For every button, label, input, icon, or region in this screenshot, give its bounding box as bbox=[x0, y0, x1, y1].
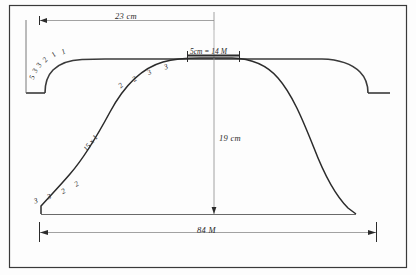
diagram-canvas: 23 cm 5cm = 14 M 19 cm 84 M 5 3 3 2 1 1 … bbox=[0, 0, 416, 275]
outer-profile bbox=[26, 59, 390, 93]
outer-profile-right-shoulder bbox=[322, 59, 368, 93]
bottom-width-dimension-label: 84 M bbox=[197, 226, 216, 235]
arrow-down-icon bbox=[212, 207, 217, 214]
top-width-dimension-label: 23 cm bbox=[115, 12, 137, 21]
outer-profile-left-shoulder bbox=[45, 59, 105, 93]
arrow-right-icon-bottom bbox=[368, 230, 376, 235]
scale-note-label: 5cm = 14 M bbox=[190, 48, 227, 56]
arrow-left-icon-bottom bbox=[40, 230, 48, 235]
arrow-left-icon bbox=[40, 18, 47, 23]
height-dimension-group bbox=[209, 58, 219, 215]
hump-right-flank bbox=[232, 58, 356, 214]
centre-height-dimension-label: 19 cm bbox=[219, 134, 241, 143]
central-hump-curve bbox=[41, 58, 356, 214]
